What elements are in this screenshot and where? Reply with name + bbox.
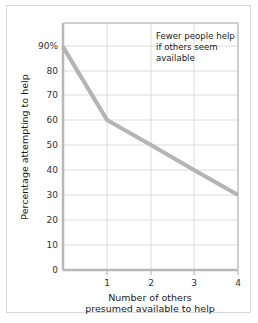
y-tick-label: 10 — [47, 240, 59, 250]
chart-annotation: Fewer people help if others seem availab… — [156, 31, 235, 63]
x-axis-title-line1: Number of others — [108, 292, 192, 303]
y-tick-label: 90% — [38, 41, 58, 51]
x-tick-label: 1 — [104, 278, 110, 288]
y-tick-label: 50 — [47, 140, 59, 150]
figure-container: 90% 80 70 60 50 40 30 20 10 0 1 2 3 4 Nu… — [0, 0, 258, 323]
y-tick-label: 70 — [47, 90, 59, 100]
x-tick-label: 3 — [191, 278, 197, 288]
y-tick-label: 60 — [47, 115, 59, 125]
y-tick-label: 30 — [47, 190, 59, 200]
annotation-line3: available — [156, 53, 195, 63]
y-tick-label: 0 — [52, 265, 58, 275]
x-axis-title: Number of others presumed available to h… — [85, 292, 215, 314]
line-chart: 90% 80 70 60 50 40 30 20 10 0 1 2 3 4 Nu… — [0, 0, 258, 323]
x-axis-tick-labels: 1 2 3 4 — [104, 278, 241, 288]
y-tick-label: 80 — [47, 66, 59, 76]
x-axis-title-line2: presumed available to help — [85, 303, 215, 314]
y-tick-label: 40 — [47, 165, 59, 175]
annotation-line1: Fewer people help — [156, 31, 235, 41]
y-axis-title: Percentage attempting to help — [19, 74, 30, 219]
x-tick-label: 2 — [148, 278, 154, 288]
x-tick-label: 4 — [235, 278, 241, 288]
annotation-line2: if others seem — [156, 42, 218, 52]
y-axis-tick-labels: 90% 80 70 60 50 40 30 20 10 0 — [38, 41, 58, 275]
y-tick-label: 20 — [47, 215, 59, 225]
